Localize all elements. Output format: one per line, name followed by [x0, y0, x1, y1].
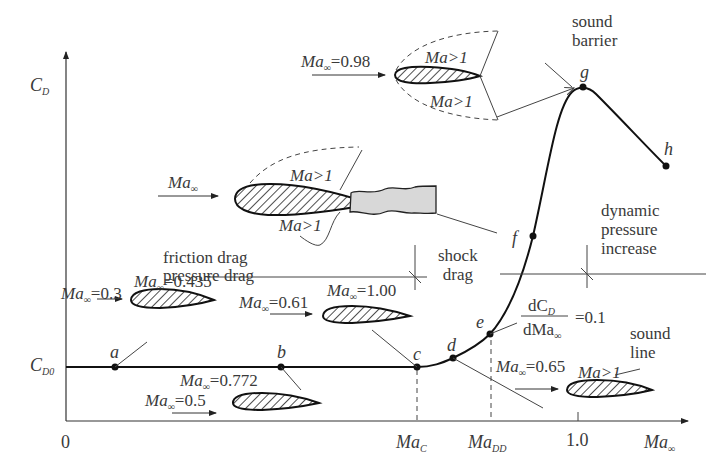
- airfoil-middle-region-upper: Ma>1: [290, 166, 333, 185]
- airfoil-top-mach: Ma∞=0.98: [301, 52, 370, 73]
- curve-points: [112, 84, 670, 371]
- x-tick-one: 1.0: [566, 431, 589, 449]
- x-tick-ma-dd: MaDD: [468, 433, 506, 451]
- dynamic-pressure-label: dynamicpressureincrease: [601, 201, 660, 258]
- point-label-b: b: [277, 343, 286, 361]
- x-tick-ma-c: MaC: [396, 433, 427, 451]
- airfoil-b-crit-mach: Ma∞=0.772: [180, 371, 258, 392]
- airfoil-d-region: Ma>1: [578, 363, 621, 382]
- origin-label: 0: [61, 433, 70, 451]
- shock-drag-label: shockdrag: [438, 246, 478, 284]
- airfoil-c-crit-mach: Ma∞=1.00: [327, 281, 396, 302]
- sound-barrier-label: soundbarrier: [572, 12, 617, 50]
- slope-denominator: dMa∞: [523, 320, 561, 341]
- baseline-label: CD0: [30, 356, 54, 374]
- airfoil-c-flow-mach: Ma∞=0.61: [239, 293, 308, 314]
- point-label-c: c: [413, 345, 421, 363]
- airfoil-d: [515, 380, 652, 397]
- slope-value: =0.1: [575, 308, 606, 327]
- airfoil-a-flow-mach: Ma∞=0.3: [61, 284, 122, 305]
- point-label-a: a: [110, 343, 119, 361]
- point-label-f: f: [512, 229, 517, 247]
- airfoil-top-region-lower: Ma>1: [430, 92, 473, 111]
- x-axis-label: Ma∞: [644, 433, 675, 451]
- airfoil-d-flow-mach: Ma∞=0.65: [496, 357, 565, 378]
- point-label-e: e: [476, 313, 484, 331]
- airfoil-b-flow-mach: Ma∞=0.5: [145, 391, 206, 412]
- airfoil-a-crit-mach: Ma∞=0.435: [134, 272, 212, 293]
- sound-line-label: soundline: [630, 324, 671, 362]
- point-label-h: h: [664, 140, 673, 158]
- point-label-g: g: [580, 63, 589, 81]
- slope-numerator: dCD: [528, 296, 555, 317]
- airfoil-middle-mach: Ma∞: [168, 173, 198, 194]
- drag-divergence-diagram: CD CD0 0 MaC MaDD 1.0 Ma∞ a b c d e f g …: [0, 0, 716, 472]
- point-label-d: d: [447, 336, 456, 354]
- friction-drag-label: friction drag: [163, 248, 248, 267]
- y-axis-label: CD: [30, 76, 49, 94]
- airfoil-top-region-upper: Ma>1: [425, 48, 468, 67]
- airfoil-middle-region-lower: Ma>1: [279, 216, 322, 235]
